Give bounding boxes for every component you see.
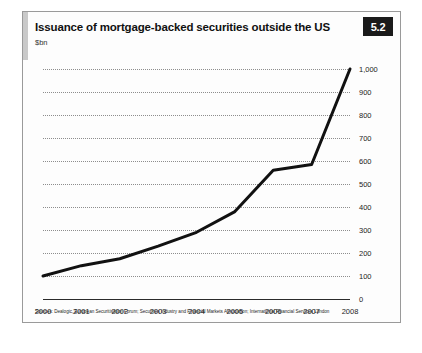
figure-panel: Issuance of mortgage-backed securities o…	[22, 11, 401, 323]
data-series-line	[23, 12, 401, 323]
source-note: Sources: Dealogic, European Securitisati…	[35, 309, 329, 314]
chart-plot-area: 01002003004005006007008009001,000 200020…	[23, 12, 401, 323]
